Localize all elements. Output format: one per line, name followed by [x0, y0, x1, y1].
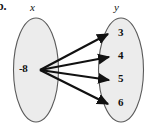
mapping-diagram-figure: b. x y -8 3 4 5 6 [0, 0, 146, 128]
domain-value-minus-8: -8 [19, 63, 28, 74]
range-axis-label: y [114, 2, 119, 13]
range-value-5: 5 [118, 73, 124, 84]
exercise-item-label: b. [0, 0, 6, 12]
range-value-6: 6 [118, 97, 124, 108]
range-value-4: 4 [118, 50, 124, 61]
range-value-3: 3 [118, 27, 124, 38]
domain-axis-label: x [30, 2, 35, 13]
